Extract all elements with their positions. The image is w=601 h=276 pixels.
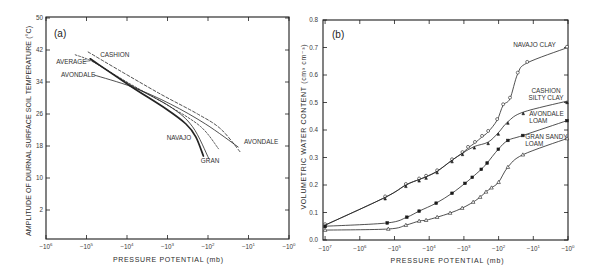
- x-tick-base: −10: [353, 245, 364, 252]
- data-point-marker: [473, 140, 476, 143]
- data-point-marker: [386, 222, 389, 225]
- x-tick-base: −10: [457, 245, 468, 252]
- series-label-avondale: AVONDALE: [61, 71, 95, 78]
- series-label-average: AVERAGE: [56, 58, 86, 65]
- series-label-avondale-loam: AVONDALE: [529, 110, 563, 117]
- y-tick-label: 18: [36, 142, 44, 149]
- panel-label: (a): [54, 28, 66, 39]
- data-point-marker: [471, 176, 474, 179]
- y-tick-label: 2: [39, 206, 43, 213]
- data-point-marker: [418, 210, 421, 213]
- data-point-marker: [435, 202, 438, 205]
- y-tick-label: 0.8: [309, 16, 318, 23]
- y-tick-label: 0.0: [309, 236, 318, 243]
- y-tick-label: 0.1: [309, 209, 318, 216]
- data-point-marker: [406, 216, 409, 219]
- x-axis-title: PRESSURE POTENTIAL (mb): [113, 256, 223, 264]
- data-point-marker: [324, 225, 327, 228]
- y-axis-title: AMPLITUDE OF DIURNAL SURFACE SOIL TEMPER…: [25, 26, 33, 236]
- series-label-navajo: NAVAJO: [167, 134, 192, 141]
- y-tick-label: 0.3: [309, 154, 318, 161]
- y-tick-label: 0.7: [309, 44, 318, 51]
- series-label-cashion-silty-clay: CASHION: [531, 87, 561, 94]
- data-point-marker: [481, 134, 484, 137]
- data-point-marker: [487, 129, 490, 132]
- y-tick-label: 50: [36, 14, 44, 21]
- x-tick-base: −10: [39, 243, 50, 250]
- x-tick-base: −10: [80, 243, 91, 250]
- data-point-marker: [496, 118, 499, 121]
- x-tick-base: −10: [201, 243, 212, 250]
- y-tick-label: 34: [36, 78, 44, 85]
- y-tick-label: 26: [36, 110, 44, 117]
- x-tick-base: −10: [527, 245, 538, 252]
- y-tick-label: 10: [36, 174, 44, 181]
- series-label-navajo-clay: NAVAJO CLAY: [513, 41, 556, 48]
- series-label-gran: GRAN: [201, 157, 220, 164]
- x-tick-base: −10: [388, 245, 399, 252]
- series-label-avondale: AVONDALE: [244, 138, 278, 145]
- series-label-avondale-loam: LOAM: [529, 117, 547, 124]
- data-point-marker: [565, 45, 568, 48]
- y-tick-label: 0.5: [309, 99, 318, 106]
- data-point-marker: [502, 103, 505, 106]
- x-axis-title: PRESSURE POTENTIAL (mb): [391, 257, 504, 265]
- data-point-marker: [508, 96, 511, 99]
- series-label-cashion: CASHION: [100, 51, 130, 58]
- data-point-marker: [566, 119, 569, 122]
- data-point-marker: [497, 148, 500, 151]
- x-tick-base: −10: [492, 245, 503, 252]
- data-point-marker: [516, 71, 519, 74]
- y-tick-label: 0.4: [309, 126, 318, 133]
- y-axis-title: VOLUMETRIC WATER CONTENT (cm³ cm⁻³): [300, 45, 308, 210]
- data-point-marker: [486, 162, 489, 165]
- x-tick-base: −10: [161, 243, 172, 250]
- series-label-gran-sandy-loam: LOAM: [525, 140, 543, 147]
- y-tick-label: 0.2: [309, 181, 318, 188]
- x-tick-base: −10: [319, 245, 330, 252]
- data-point-marker: [467, 145, 470, 148]
- data-point-marker: [451, 192, 454, 195]
- x-tick-base: −10: [120, 243, 131, 250]
- data-point-marker: [464, 182, 467, 185]
- x-tick-base: −10: [423, 245, 434, 252]
- y-tick-label: 42: [36, 46, 44, 53]
- data-point-marker: [522, 134, 525, 137]
- x-tick-base: −10: [282, 243, 293, 250]
- panel-label: (b): [332, 29, 344, 40]
- y-tick-label: 0.6: [309, 71, 318, 78]
- x-tick-base: −10: [561, 245, 572, 252]
- series-label-gran-sandy-loam: GRAN SANDY: [525, 133, 568, 140]
- figure: (a) PRESSURE POTENTIAL (mb) AMPLITUDE OF…: [0, 0, 601, 276]
- data-point-marker: [480, 168, 483, 171]
- data-point-marker: [526, 60, 529, 63]
- x-tick-base: −10: [242, 243, 253, 250]
- series-label-cashion-silty-clay: SILTY CLAY: [528, 94, 564, 101]
- data-point-marker: [507, 139, 510, 142]
